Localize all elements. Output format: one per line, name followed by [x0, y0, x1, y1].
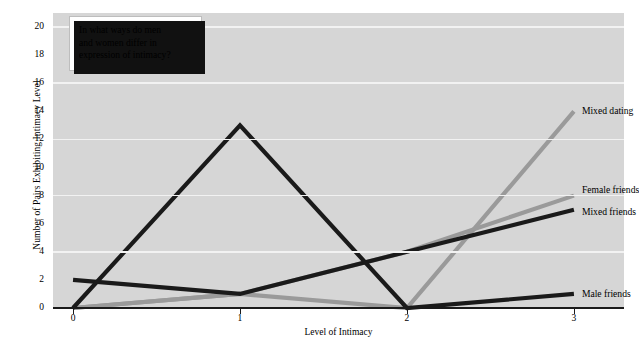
- series-label-mixed-friends: Mixed friends: [582, 206, 636, 217]
- x-tick-label-0: 0: [58, 313, 88, 323]
- gridline-y-16: [53, 82, 624, 84]
- y-tick-label-16: 16: [14, 77, 44, 87]
- y-tick-label-0: 0: [14, 302, 44, 312]
- y-tick-label-18: 18: [14, 49, 44, 59]
- series-label-mixed-dating: Mixed dating: [582, 105, 633, 116]
- y-tick-label-2: 2: [14, 274, 44, 284]
- y-tick-label-10: 10: [14, 162, 44, 172]
- y-tick-label-14: 14: [14, 105, 44, 115]
- x-axis-line: [53, 307, 624, 309]
- y-tick-label-20: 20: [14, 21, 44, 31]
- gridline-y-12: [53, 139, 624, 141]
- gridline-y-8: [53, 195, 624, 197]
- y-tick-label-6: 6: [14, 218, 44, 228]
- y-tick-label-12: 12: [14, 133, 44, 143]
- series-line-male-friends: [73, 125, 574, 308]
- question-callout: In what ways do men and women differ in …: [69, 16, 202, 71]
- x-tick-label-1: 1: [225, 313, 255, 323]
- x-axis-title: Level of Intimacy: [53, 327, 624, 337]
- series-line-mixed-dating: [73, 111, 574, 308]
- y-tick-label-4: 4: [14, 246, 44, 256]
- callout-line-2: and women differ in: [79, 37, 193, 50]
- callout-line-1: In what ways do men: [79, 24, 193, 37]
- gridline-y-4: [53, 251, 624, 253]
- series-label-male-friends: Male friends: [582, 288, 631, 299]
- x-tick-label-2: 2: [392, 313, 422, 323]
- x-tick-label-3: 3: [559, 313, 589, 323]
- series-label-female-friends: Female friends: [582, 184, 639, 195]
- callout-line-3: expression of intimacy?: [79, 49, 193, 62]
- figure-caption: [58, 339, 618, 347]
- callout-text: In what ways do men and women differ in …: [79, 24, 193, 62]
- y-tick-label-8: 8: [14, 190, 44, 200]
